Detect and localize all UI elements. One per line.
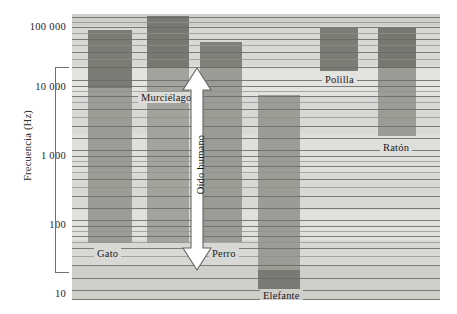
axis-bracket-cap-bottom: [55, 272, 69, 273]
bar-polilla: [320, 28, 358, 71]
bar-label-polilla: Polilla: [322, 74, 357, 85]
bar-segment-dark: [320, 28, 358, 71]
bar-segment-dark: [147, 16, 189, 68]
human-hearing-label: Oído humano: [195, 106, 206, 224]
bar-murcielago-top: [147, 16, 189, 68]
band: [72, 266, 440, 300]
bar-label-elefante: Elefante: [260, 290, 303, 300]
plot-area: Gato Murciélago Perro Elefante Polilla R…: [72, 14, 440, 300]
figure-root: Frecuencia (Hz) 100 000 10 000 1 000 100…: [0, 0, 457, 314]
bar-label-gato: Gato: [94, 248, 121, 259]
bar-elefante-bottom: [258, 270, 300, 289]
y-tick-100000: 100 000: [4, 21, 66, 32]
axis-bracket-line: [55, 67, 56, 273]
bar-segment-dark: [378, 28, 416, 68]
y-tick-10: 10: [4, 288, 66, 299]
axis-bracket-cap-top: [55, 67, 69, 68]
bar-raton-top: [378, 28, 416, 68]
bar-segment-dark: [258, 270, 300, 289]
plot-inner: Gato Murciélago Perro Elefante Polilla R…: [72, 14, 440, 300]
band: [72, 14, 440, 26]
axis-bracket: [55, 67, 69, 273]
bar-label-raton: Ratón: [380, 142, 412, 153]
human-hearing-arrow: Oído humano: [180, 66, 214, 272]
